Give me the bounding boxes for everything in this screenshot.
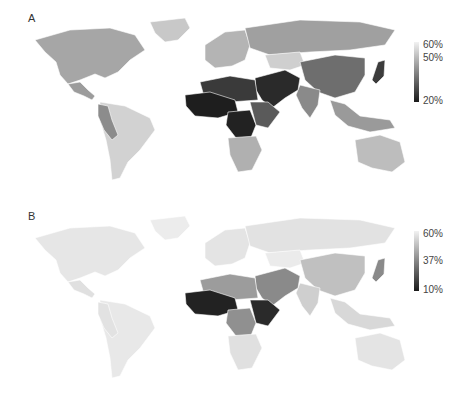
region-central-asia bbox=[265, 250, 305, 268]
region-southern-africa bbox=[228, 136, 262, 172]
region-se-asia bbox=[330, 298, 395, 330]
region-india bbox=[296, 283, 320, 316]
region-central-asia bbox=[265, 52, 305, 70]
map-panel-a: A 60% 50% 20% bbox=[0, 0, 466, 190]
world-map-b bbox=[0, 198, 466, 388]
region-north-america bbox=[35, 226, 145, 282]
legend-tick-mid: 50% bbox=[423, 53, 443, 63]
region-north-america bbox=[35, 28, 145, 84]
region-europe bbox=[205, 30, 250, 68]
region-russia bbox=[245, 218, 395, 253]
region-se-asia bbox=[330, 100, 395, 132]
region-central-america bbox=[68, 82, 95, 100]
region-greenland bbox=[150, 216, 190, 240]
legend-colorbar-a bbox=[414, 42, 419, 102]
region-japan bbox=[372, 60, 385, 84]
legend-tick-min: 10% bbox=[423, 285, 443, 295]
region-central-africa bbox=[226, 308, 256, 338]
legend-tick-mid: 37% bbox=[423, 256, 443, 266]
legend-tick-min: 20% bbox=[423, 96, 443, 106]
region-greenland bbox=[150, 18, 190, 42]
region-australia bbox=[355, 135, 405, 172]
legend-tick-max: 60% bbox=[423, 40, 443, 50]
map-panel-b: B 60% 37% 10% bbox=[0, 198, 466, 388]
region-central-africa bbox=[226, 110, 256, 140]
region-russia bbox=[245, 20, 395, 55]
legend-colorbar-b bbox=[414, 231, 419, 291]
region-southern-africa bbox=[228, 334, 262, 370]
region-australia bbox=[355, 333, 405, 370]
legend-tick-max: 60% bbox=[423, 229, 443, 239]
region-india bbox=[296, 85, 320, 118]
legend-b: 60% 37% 10% bbox=[414, 231, 466, 311]
world-map-a bbox=[0, 0, 466, 190]
legend-a: 60% 50% 20% bbox=[414, 42, 466, 122]
region-central-america bbox=[68, 280, 95, 298]
region-europe bbox=[205, 228, 250, 266]
region-japan bbox=[372, 258, 385, 282]
